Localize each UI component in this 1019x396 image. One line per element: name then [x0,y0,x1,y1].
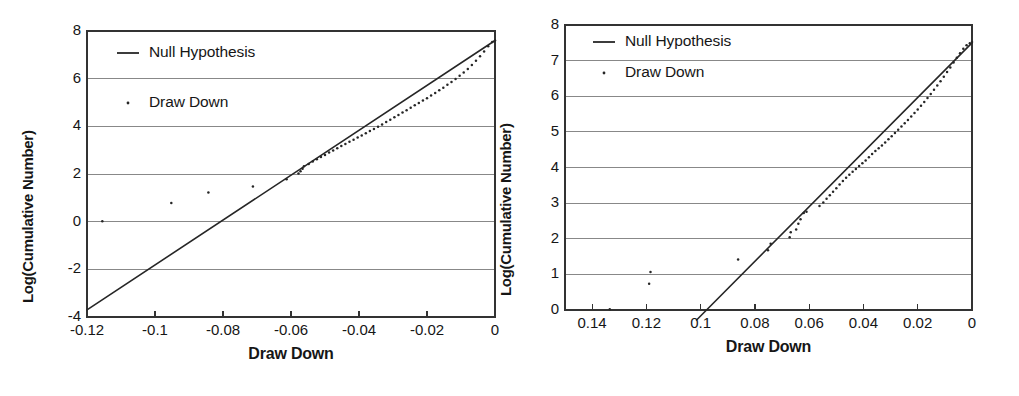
y-tick-label: 6 [41,69,81,86]
chart-panel-right: Draw Down Log(Cumulative Number) 0.140.1… [510,0,1019,396]
y-tick-label: 1 [519,264,559,281]
y-tick-label: 5 [519,122,559,139]
x-tick-label: 0.08 [725,314,785,331]
y-tick-label: 4 [519,158,559,175]
y-tick-label: 2 [41,164,81,181]
x-tick-label: 0 [942,314,1002,331]
plot-area-right [510,0,1019,396]
y-tick-label: -4 [41,307,81,324]
legend-label-draw-down-left: Draw Down [149,93,228,111]
y-axis-title-left: Log(Cumulative Number) [19,130,36,303]
legend-dot-swatch [603,72,606,75]
x-tick-label: -0.1 [125,321,185,338]
x-tick-label: 0.12 [616,314,676,331]
scatter-points [609,41,974,311]
x-tick-label: 0.04 [833,314,893,331]
x-tick-label: -0.02 [397,321,457,338]
legend-dot-swatch [127,102,130,105]
y-tick-label: 4 [41,116,81,133]
y-tick-label: -2 [41,259,81,276]
y-tick-label: 6 [519,86,559,103]
y-tick-label: 0 [41,212,81,229]
y-tick-label: 3 [519,193,559,210]
x-tick-label: 0.02 [888,314,948,331]
two-panel-figure: Draw Down Log(Cumulative Number) -0.12-0… [0,0,1019,396]
y-tick-label: 8 [41,21,81,38]
legend-label-null-hypothesis-right: Null Hypothesis [625,32,731,50]
chart-panel-left: Draw Down Log(Cumulative Number) -0.12-0… [0,0,510,396]
y-axis-title-right: Log(Cumulative Number) [497,123,514,296]
x-axis-title-left: Draw Down [87,345,495,363]
x-axis-title-right: Draw Down [565,338,972,356]
x-tick-label: -0.06 [261,321,321,338]
y-tick-label: 7 [519,51,559,68]
x-tick-label: 0.14 [562,314,622,331]
x-tick-label: -0.04 [329,321,389,338]
x-tick-label: 0.1 [671,314,731,331]
legend-label-null-hypothesis-left: Null Hypothesis [149,43,255,61]
y-tick-label: 8 [519,15,559,32]
y-tick-label: 2 [519,229,559,246]
x-tick-label: 0.06 [779,314,839,331]
y-tick-label: 0 [519,300,559,317]
x-tick-label: -0.08 [193,321,253,338]
scatter-points [101,39,496,222]
legend-label-draw-down-right: Draw Down [625,63,704,81]
